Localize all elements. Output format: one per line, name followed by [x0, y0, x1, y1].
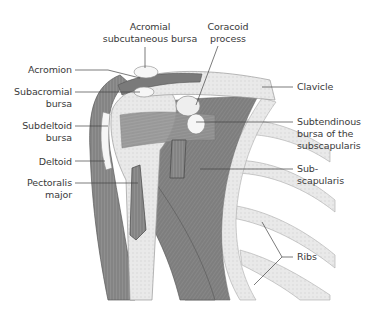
label-subscapularis: Sub- scapularis: [297, 163, 344, 187]
coracoid-process: [176, 96, 200, 116]
label-ribs: Ribs: [297, 251, 317, 263]
label-acromial-subcutaneous-bursa: Acromial subcutaneous bursa: [100, 21, 200, 45]
label-pectoralis-major: Pectoralis major: [0, 177, 72, 201]
coracoid-tendon: [170, 140, 186, 178]
label-clavicle: Clavicle: [297, 81, 333, 93]
label-coracoid-process: Coracoid process: [200, 21, 256, 45]
acromial-subcutaneous-bursa: [134, 66, 158, 78]
label-subtendinous-bursa: Subtendinous bursa of the subscapularis: [297, 116, 361, 152]
label-acromion: Acromion: [0, 64, 72, 76]
label-deltoid: Deltoid: [0, 156, 72, 168]
subtendinous-bursa: [187, 114, 205, 134]
label-subacromial-bursa: Subacromial bursa: [0, 86, 72, 110]
label-subdeltoid-bursa: Subdeltoid bursa: [0, 120, 72, 144]
